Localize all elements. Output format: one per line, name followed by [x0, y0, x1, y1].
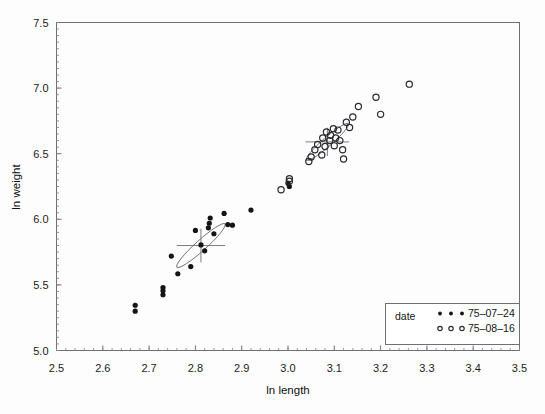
x-tick-label: 2.7	[141, 362, 156, 374]
x-tick-label: 3.4	[466, 362, 481, 374]
scatter-plot: 2.52.62.72.82.93.03.13.23.33.43.5 5.05.5…	[0, 0, 545, 414]
data-point	[340, 156, 346, 162]
x-tick-label: 2.9	[234, 362, 249, 374]
x-axis-tick-labels: 2.52.62.72.82.93.03.13.23.33.43.5	[49, 362, 527, 374]
y-tick-label: 5.5	[33, 279, 48, 291]
legend-marker-filled	[460, 312, 464, 316]
data-point	[319, 152, 325, 158]
series-points-75-08-16	[278, 81, 412, 193]
data-point	[206, 225, 211, 230]
y-tick-label: 6.5	[33, 148, 48, 160]
data-point	[211, 231, 216, 236]
data-point	[175, 271, 180, 276]
x-tick-label: 2.8	[188, 362, 203, 374]
y-tick-label: 6.0	[33, 213, 48, 225]
y-tick-label: 7.0	[33, 82, 48, 94]
data-point	[193, 228, 198, 233]
data-point	[373, 94, 379, 100]
data-point	[133, 303, 138, 308]
data-point	[350, 114, 356, 120]
data-point	[355, 103, 361, 109]
data-point	[188, 264, 193, 269]
x-tick-label: 3.5	[512, 362, 527, 374]
data-point	[323, 129, 329, 135]
data-point	[198, 242, 203, 247]
x-tick-label: 3.2	[373, 362, 388, 374]
chart-container: 2.52.62.72.82.93.03.13.23.33.43.5 5.05.5…	[0, 0, 545, 414]
y-axis-tick-labels: 5.05.56.06.57.07.5	[33, 17, 48, 357]
y-tick-label: 5.0	[33, 345, 48, 357]
data-point	[208, 215, 213, 220]
data-point	[378, 111, 384, 117]
data-point	[160, 292, 165, 297]
legend-marker-filled	[438, 312, 442, 316]
data-point	[340, 147, 346, 153]
series-points-75-07-24	[133, 181, 292, 314]
centroid-crosshairs	[177, 128, 349, 263]
x-tick-label: 3.1	[327, 362, 342, 374]
y-axis-title: ln weight	[10, 164, 22, 210]
data-point	[230, 223, 235, 228]
data-point	[225, 222, 230, 227]
x-tick-label: 2.6	[95, 362, 110, 374]
data-point	[133, 309, 138, 314]
x-tick-label: 3.0	[280, 362, 295, 374]
data-point	[222, 211, 227, 216]
x-tick-label: 2.5	[49, 362, 64, 374]
data-point	[406, 81, 412, 87]
x-tick-label: 3.3	[419, 362, 434, 374]
data-point	[207, 221, 212, 226]
data-point	[202, 248, 207, 253]
y-tick-label: 7.5	[33, 17, 48, 29]
legend-title: date	[395, 310, 416, 322]
data-point	[169, 253, 174, 258]
data-point	[248, 208, 253, 213]
data-point	[278, 187, 284, 193]
legend-marker-filled	[449, 312, 453, 316]
legend[interactable]: date 75–07–2475–08–16	[386, 304, 520, 345]
data-point	[331, 143, 337, 149]
legend-entry-label: 75–08–16	[468, 322, 515, 334]
legend-entry-label: 75–07–24	[468, 307, 515, 319]
x-axis-title: ln length	[266, 384, 309, 396]
